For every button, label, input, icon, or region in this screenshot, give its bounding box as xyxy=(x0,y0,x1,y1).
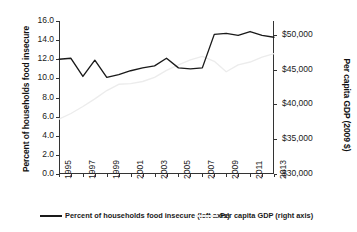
x-tick-mark xyxy=(143,174,144,177)
x-tick-mark xyxy=(274,174,275,177)
left-tick-label: 2.0 xyxy=(8,149,54,159)
left-tick-label: 16.0 xyxy=(8,15,54,25)
chart-legend: Percent of households food insecure (lef… xyxy=(0,210,357,226)
legend-swatch-food-insecure xyxy=(40,215,62,217)
x-tick-mark xyxy=(119,174,120,177)
series-layer xyxy=(59,21,274,174)
left-tick-mark xyxy=(56,21,59,22)
left-tick-mark xyxy=(56,59,59,60)
x-tick-mark xyxy=(107,174,108,177)
x-tick-label: 2013 xyxy=(278,160,288,179)
right-tick-label: $50,000 xyxy=(282,29,334,39)
right-tick-label: $40,000 xyxy=(282,98,334,108)
left-tick-mark xyxy=(56,78,59,79)
right-tick-mark xyxy=(274,104,277,105)
x-tick-mark xyxy=(167,174,168,177)
right-tick-mark xyxy=(274,35,277,36)
legend-swatch-per-capita-gdp xyxy=(196,215,218,217)
x-tick-mark xyxy=(71,174,72,177)
right-tick-mark xyxy=(274,139,277,140)
right-tick-label: $35,000 xyxy=(282,133,334,143)
plot-area xyxy=(59,21,274,174)
left-tick-label: 6.0 xyxy=(8,111,54,121)
left-tick-mark xyxy=(56,117,59,118)
left-tick-label: 14.0 xyxy=(8,34,54,44)
x-tick-mark xyxy=(59,174,60,177)
left-tick-label: 0.0 xyxy=(8,168,54,178)
chart-container: Percent of households food insecure Per … xyxy=(0,0,357,232)
left-tick-mark xyxy=(56,98,59,99)
left-tick-label: 8.0 xyxy=(8,92,54,102)
right-tick-label: $45,000 xyxy=(282,64,334,74)
left-tick-mark xyxy=(56,40,59,41)
x-tick-mark xyxy=(238,174,239,177)
legend-label-per-capita-gdp: Per capita GDP (right axis) xyxy=(220,211,313,220)
left-tick-label: 12.0 xyxy=(8,53,54,63)
left-tick-label: 4.0 xyxy=(8,130,54,140)
x-tick-mark xyxy=(178,174,179,177)
right-axis-title: Per capita GDP (2009 $) xyxy=(342,25,352,185)
x-tick-mark xyxy=(214,174,215,177)
x-tick-mark xyxy=(83,174,84,177)
right-tick-label: $30,000 xyxy=(282,168,334,178)
x-tick-mark xyxy=(250,174,251,177)
x-tick-mark xyxy=(131,174,132,177)
right-tick-mark xyxy=(274,70,277,71)
x-tick-mark xyxy=(262,174,263,177)
x-tick-mark xyxy=(190,174,191,177)
x-tick-mark xyxy=(226,174,227,177)
left-tick-label: 10.0 xyxy=(8,72,54,82)
x-tick-mark xyxy=(155,174,156,177)
line-per-capita-gdp xyxy=(59,54,274,119)
x-tick-mark xyxy=(202,174,203,177)
x-tick-mark xyxy=(95,174,96,177)
left-tick-mark xyxy=(56,155,59,156)
left-tick-mark xyxy=(56,136,59,137)
